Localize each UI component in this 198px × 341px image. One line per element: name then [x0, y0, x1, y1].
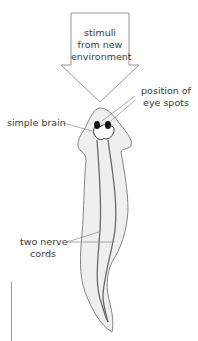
arrow-label-line-3: environment [71, 51, 129, 63]
eye-spots-leader-1 [102, 96, 135, 121]
eye-spot-right [105, 121, 111, 129]
brain-label: simple brain [7, 117, 66, 129]
eye-spot-left [94, 121, 100, 129]
nerve-cords-label-line-2: cords [20, 248, 66, 260]
arrow-label-line-1: stimuli [71, 27, 129, 39]
eye-spots-leader-2 [111, 100, 135, 121]
nerve-cords-label: two nerve cords [20, 236, 66, 260]
nerve-cords-label-line-1: two nerve [20, 236, 66, 248]
eye-spots-label: position of eye spots [136, 85, 196, 109]
arrow-label-line-2: from new [71, 39, 129, 51]
worm-body [78, 108, 131, 332]
eye-spots-label-line-1: position of [136, 85, 196, 97]
arrow-label: stimuli from new environment [71, 27, 129, 63]
eye-spots-label-line-2: eye spots [136, 97, 196, 109]
